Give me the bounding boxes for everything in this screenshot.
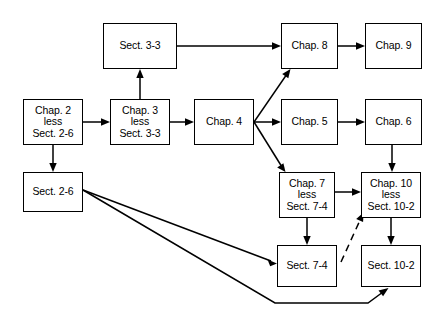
edge-chap4-to-chap5 — [254, 118, 281, 125]
node-chap-9[interactable]: Chap. 9 — [365, 23, 422, 69]
node-label-line-3: Sect. 3-3 — [119, 128, 160, 140]
node-label-line-3: Sect. 2-6 — [32, 128, 73, 140]
node-label: Chap. 8 — [291, 40, 327, 52]
node-chap-5[interactable]: Chap. 5 — [281, 99, 338, 145]
edge-chap7-to-chap10 — [335, 188, 361, 195]
diagram-canvas: Sect. 3-3 Chap. 8 Chap. 9 Chap. 2 less S… — [0, 0, 438, 321]
node-label: Sect. 3-3 — [119, 40, 160, 52]
node-chap-3-less-sect-3-3[interactable]: Chap. 3 less Sect. 3-3 — [110, 99, 170, 145]
edge-sect26-to-sect74 — [83, 190, 277, 266]
node-sect-3-3[interactable]: Sect. 3-3 — [103, 23, 177, 69]
edge-chap6-to-chap10 — [388, 145, 395, 172]
node-sect-10-2[interactable]: Sect. 10-2 — [361, 245, 421, 287]
edge-chap7-to-sect74 — [303, 218, 310, 245]
edge-chap2-to-chap3 — [83, 118, 110, 125]
node-label: Sect. 10-2 — [368, 260, 415, 272]
node-label: Sect. 7-4 — [286, 260, 327, 272]
node-label: Chap. 6 — [375, 116, 411, 128]
node-label: Chap. 9 — [375, 40, 411, 52]
node-label-line-3: Sect. 7-4 — [286, 201, 327, 213]
edge-chap2-to-sect26 — [49, 145, 56, 172]
edge-chap10-to-sect102 — [387, 218, 394, 245]
node-sect-7-4[interactable]: Sect. 7-4 — [277, 245, 337, 287]
node-chap-6[interactable]: Chap. 6 — [365, 99, 422, 145]
edge-chap3-to-sect33 — [136, 69, 143, 99]
edge-chap5-to-chap6 — [338, 118, 365, 125]
edge-chap3-to-chap4 — [170, 118, 194, 125]
node-label: Sect. 2-6 — [32, 186, 73, 198]
node-label: Chap. 5 — [291, 116, 327, 128]
node-label-line-3: Sect. 10-2 — [368, 201, 415, 213]
node-chap-8[interactable]: Chap. 8 — [281, 23, 338, 69]
node-chap-4[interactable]: Chap. 4 — [194, 99, 254, 145]
node-chap-2-less-sect-2-6[interactable]: Chap. 2 less Sect. 2-6 — [23, 99, 83, 145]
edge-chap8-to-chap9 — [338, 42, 365, 49]
node-sect-2-6[interactable]: Sect. 2-6 — [23, 172, 83, 212]
node-chap-10-less-sect-10-2[interactable]: Chap. 10 less Sect. 10-2 — [361, 172, 421, 218]
node-label: Chap. 4 — [206, 116, 242, 128]
edge-sect33-to-chap8 — [177, 42, 281, 49]
node-chap-7-less-sect-7-4[interactable]: Chap. 7 less Sect. 7-4 — [279, 172, 335, 218]
